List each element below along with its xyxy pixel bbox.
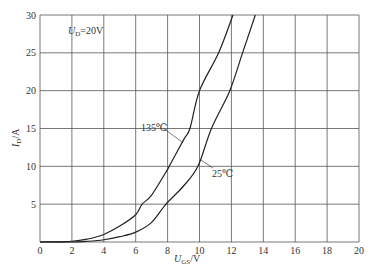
series-label-135: 135℃ (141, 122, 167, 133)
x-tick: 2 (69, 245, 74, 256)
leader-25 (201, 160, 213, 168)
x-tick: 6 (133, 245, 138, 256)
y-tick: 20 (26, 85, 36, 96)
x-tick: 18 (322, 245, 332, 256)
y-tick-labels: 51015202530 (26, 10, 36, 210)
chart: 02468101214161820 51015202530 UD=20V UGS… (0, 0, 373, 279)
y-tick: 25 (26, 47, 36, 58)
grid (40, 15, 359, 242)
series-label-25: 25℃ (212, 168, 233, 179)
x-axis-label: UGS/V (174, 253, 201, 266)
x-tick-labels: 02468101214161820 (38, 245, 365, 256)
x-tick: 12 (226, 245, 236, 256)
y-axis-label: ID/A (10, 128, 23, 148)
x-tick: 14 (258, 245, 268, 256)
y-tick: 10 (26, 161, 36, 172)
x-tick: 4 (101, 245, 106, 256)
y-tick: 15 (26, 123, 36, 134)
annotation: UD=20V (68, 25, 104, 38)
x-tick: 8 (165, 245, 170, 256)
x-tick: 16 (290, 245, 300, 256)
x-tick: 0 (38, 245, 43, 256)
y-tick: 5 (31, 199, 36, 210)
y-tick: 30 (26, 10, 36, 21)
x-tick: 20 (354, 245, 364, 256)
